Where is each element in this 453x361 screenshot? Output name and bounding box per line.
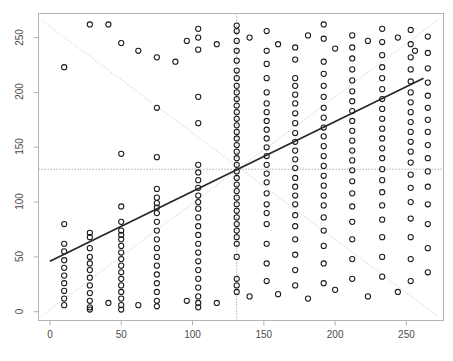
- data-points-group: [62, 22, 431, 312]
- data-point: [350, 257, 355, 262]
- data-point: [293, 193, 298, 198]
- data-point: [264, 136, 269, 141]
- x-tick-label-200: 200: [321, 329, 349, 340]
- data-point: [119, 283, 124, 288]
- data-point: [196, 170, 201, 175]
- data-point: [196, 224, 201, 229]
- data-point: [293, 202, 298, 207]
- data-point: [380, 156, 385, 161]
- data-point: [321, 173, 326, 178]
- data-point: [408, 42, 413, 47]
- data-point: [87, 261, 92, 266]
- data-point: [293, 92, 298, 97]
- data-point: [321, 261, 326, 266]
- data-point: [380, 39, 385, 44]
- data-point: [408, 119, 413, 124]
- data-point: [408, 149, 413, 154]
- data-point: [293, 148, 298, 153]
- data-point: [154, 155, 159, 160]
- data-point: [408, 110, 413, 115]
- data-point: [350, 89, 355, 94]
- data-point: [350, 138, 355, 143]
- data-point: [196, 250, 201, 255]
- data-point: [196, 294, 201, 299]
- data-point: [333, 287, 338, 292]
- scatter-plot-figure: 050100150200250050100150200250: [0, 0, 453, 361]
- plot-canvas: [0, 0, 453, 361]
- data-point: [293, 57, 298, 62]
- data-point: [264, 261, 269, 266]
- data-point: [380, 178, 385, 183]
- data-point: [119, 41, 124, 46]
- data-point: [425, 105, 430, 110]
- data-point: [136, 48, 141, 53]
- data-point: [154, 281, 159, 286]
- data-point: [380, 26, 385, 31]
- data-point: [321, 215, 326, 220]
- data-point: [154, 195, 159, 200]
- data-point: [425, 142, 430, 147]
- data-point: [350, 237, 355, 242]
- data-point: [408, 172, 413, 177]
- data-point: [321, 183, 326, 188]
- y-tick-label-200: 200: [13, 80, 24, 104]
- data-point: [350, 118, 355, 123]
- y-tick-label-100: 100: [13, 190, 24, 214]
- data-point: [425, 129, 430, 134]
- data-point: [293, 166, 298, 171]
- data-point: [119, 276, 124, 281]
- data-point: [264, 241, 269, 246]
- data-point: [365, 38, 370, 43]
- data-point: [119, 296, 124, 301]
- data-point: [380, 254, 385, 259]
- data-point: [425, 50, 430, 55]
- data-point: [154, 219, 159, 224]
- x-tick-label-0: 0: [36, 329, 64, 340]
- data-point: [408, 199, 413, 204]
- data-point: [425, 270, 430, 275]
- data-point: [380, 274, 385, 279]
- data-point: [293, 45, 298, 50]
- data-point: [321, 36, 326, 41]
- data-point: [154, 289, 159, 294]
- data-point: [380, 190, 385, 195]
- data-point: [214, 300, 219, 305]
- data-point: [247, 35, 252, 40]
- data-point: [62, 273, 67, 278]
- data-point: [154, 298, 159, 303]
- data-point: [87, 298, 92, 303]
- x-tick-label-250: 250: [392, 329, 420, 340]
- data-point: [293, 237, 298, 242]
- data-point: [119, 204, 124, 209]
- data-point: [350, 168, 355, 173]
- data-point: [293, 101, 298, 106]
- data-point: [408, 139, 413, 144]
- data-point: [293, 252, 298, 257]
- data-point: [408, 55, 413, 60]
- data-point: [408, 67, 413, 72]
- data-point: [321, 71, 326, 76]
- data-point: [380, 76, 385, 81]
- data-point: [350, 158, 355, 163]
- data-point: [264, 101, 269, 106]
- data-point: [154, 55, 159, 60]
- data-point: [425, 184, 430, 189]
- data-point: [62, 221, 67, 226]
- data-point: [87, 22, 92, 27]
- data-point: [154, 263, 159, 268]
- data-point: [264, 221, 269, 226]
- data-point: [173, 59, 178, 64]
- data-point: [154, 246, 159, 251]
- data-point: [293, 121, 298, 126]
- data-point: [380, 203, 385, 208]
- data-point: [395, 35, 400, 40]
- data-point: [87, 246, 92, 251]
- data-point: [293, 157, 298, 162]
- data-point: [365, 294, 370, 299]
- data-point: [154, 237, 159, 242]
- data-point: [87, 254, 92, 259]
- data-point: [408, 27, 413, 32]
- data-point: [350, 191, 355, 196]
- data-point: [154, 304, 159, 309]
- data-point: [293, 175, 298, 180]
